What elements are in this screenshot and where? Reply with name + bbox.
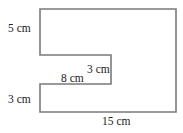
label-notch-right-side: 3 cm (87, 63, 110, 75)
label-bottom-length: 15 cm (102, 115, 130, 127)
label-notch-top-length: 8 cm (61, 72, 84, 84)
label-bottom-left-side: 3 cm (8, 93, 31, 105)
notched-rectangle-outline (40, 9, 176, 112)
label-top-left-side: 5 cm (8, 22, 31, 34)
composite-shape-diagram: 5 cm 3 cm 8 cm 3 cm 15 cm (0, 0, 183, 133)
